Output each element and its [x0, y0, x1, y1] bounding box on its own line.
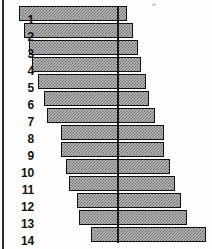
bar-row [32, 57, 141, 72]
bar-row [69, 176, 175, 191]
bar-row [61, 125, 164, 140]
category-label: 14 [0, 235, 34, 247]
bar-chart-figure: 1234567891011121314 [0, 0, 212, 249]
bar-row [47, 108, 155, 123]
category-label: 6 [0, 99, 34, 111]
category-label: 13 [0, 218, 34, 230]
category-label: 11 [0, 184, 34, 196]
category-label: 5 [0, 82, 34, 94]
bar-row [77, 193, 181, 208]
bar-row [61, 142, 164, 157]
center-reference-line [117, 6, 119, 243]
category-label: 4 [0, 65, 34, 77]
category-label: 12 [0, 201, 34, 213]
bar-row [19, 6, 127, 21]
bar-row [44, 91, 149, 106]
category-label: 9 [0, 150, 34, 162]
category-label: 8 [0, 133, 34, 145]
bar-row [38, 74, 146, 89]
category-label: 7 [0, 116, 34, 128]
bar-row [29, 40, 138, 55]
category-label: 10 [0, 167, 34, 179]
category-label: 3 [0, 48, 34, 60]
plot-area: 1234567891011121314 [0, 0, 212, 249]
bar-row [79, 210, 187, 225]
bar-row [91, 227, 206, 242]
